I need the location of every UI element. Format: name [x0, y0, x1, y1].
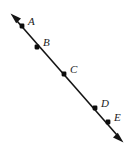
point-label-d: D — [100, 97, 109, 109]
main-line — [17, 21, 117, 135]
point-dot-d — [93, 106, 98, 111]
line-diagram-svg: A B C D E — [0, 0, 132, 152]
point-dot-a — [20, 24, 25, 29]
point-label-c: C — [70, 63, 78, 75]
point-label-b: B — [43, 36, 50, 48]
arrowhead-top-left — [11, 14, 22, 24]
arrowhead-bottom-right — [113, 133, 124, 143]
point-label-e: E — [113, 111, 121, 123]
figure-canvas: A B C D E — [0, 0, 132, 152]
point-dot-c — [62, 72, 67, 77]
point-dot-b — [35, 45, 40, 50]
point-label-a: A — [27, 15, 35, 27]
point-dot-e — [106, 120, 111, 125]
